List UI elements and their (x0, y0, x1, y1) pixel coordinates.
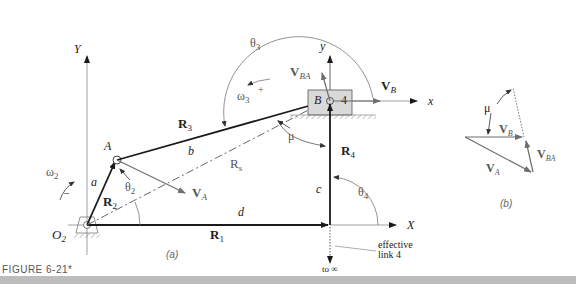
part-a: Y X O2 d R1 a R2 A θ2 ω2 – R3 (46, 36, 434, 274)
vba-label: VBA (290, 64, 311, 81)
r2-label: R2 (103, 194, 117, 211)
polygon-vba (526, 141, 533, 172)
omega3-label: ω3 (237, 89, 250, 105)
r1-label: R1 (210, 227, 224, 244)
part-b-velocity-polygon: VA VB VBA μ (b) (465, 88, 556, 209)
local-x-label: x (427, 94, 434, 108)
mu-label: μ (288, 129, 294, 143)
theta2-label: θ2 (125, 180, 135, 196)
link-a-label: a (91, 175, 97, 189)
omega3-sign: + (258, 84, 264, 95)
theta2-arc (135, 202, 140, 225)
vector-r3-link-b (117, 101, 326, 160)
point-a-label: A (103, 139, 112, 153)
vb-label: VB (381, 78, 396, 95)
polygon-mu-arrow-down (488, 113, 491, 134)
effective-label-line2: link 4 (378, 249, 401, 260)
polygon-dotted-line (513, 88, 524, 137)
rs-label: Rs (230, 156, 243, 173)
link-d-label: d (238, 205, 245, 219)
block-number-label: 4 (341, 93, 347, 107)
polygon-vb-label: VB (499, 122, 513, 138)
part-b-label: (b) (500, 198, 512, 209)
global-y-label: Y (74, 42, 82, 56)
part-a-label: (a) (166, 249, 178, 260)
fourbar-slider-diagram: Y X O2 d R1 a R2 A θ2 ω2 – R3 (0, 0, 576, 287)
polygon-va (465, 137, 531, 172)
figure-caption: FIGURE 6-21* (2, 264, 72, 275)
polygon-va-label: VA (486, 161, 500, 177)
r3-label: R3 (178, 116, 192, 133)
polygon-mu-label: μ (484, 101, 490, 115)
to-infinity-label: to ∞ (322, 264, 338, 274)
o2-label: O2 (52, 227, 66, 244)
va-label: VA (192, 185, 207, 202)
slider-block-4 (290, 90, 376, 119)
polygon-vba-label: VBA (537, 147, 556, 163)
effective-link-leader (335, 246, 376, 251)
r4-label: R4 (341, 143, 355, 160)
theta4-arc (334, 177, 378, 225)
theta4-label: θ4 (358, 185, 369, 201)
link-c-label: c (316, 182, 322, 196)
omega2-sign: – (63, 187, 70, 198)
vector-rs (87, 103, 322, 225)
theta3-label: θ3 (250, 36, 261, 52)
global-x-label: X (406, 218, 415, 232)
theta2-arrow (120, 169, 130, 180)
polygon-mu-arrow-up (497, 90, 511, 104)
link-b-label: b (188, 144, 194, 158)
point-b-label: B (314, 93, 322, 107)
caption-divider-bar (0, 276, 576, 284)
omega2-label: ω2 (46, 165, 58, 181)
mu-arc (278, 120, 325, 146)
